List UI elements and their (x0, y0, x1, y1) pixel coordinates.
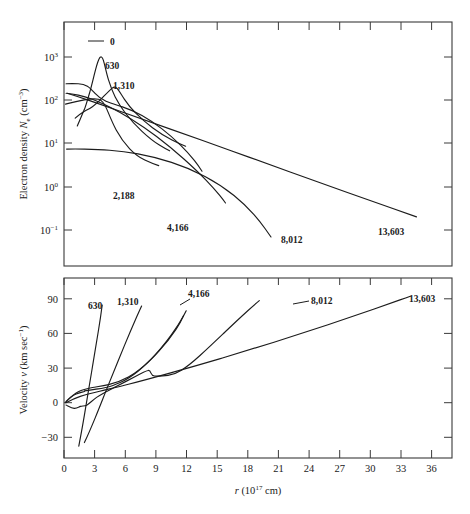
top-ytick-0: 100 (44, 181, 59, 193)
bottom-ytick-30: 30 (48, 363, 59, 374)
bottom-panel-y-axis-title: Velocity v (km sec−1) (17, 325, 30, 414)
bottom-curve-4166 (66, 311, 186, 402)
bottom-panel-x-ticks (64, 450, 432, 458)
bottom-label-13603: 13,603 (409, 294, 435, 304)
bottom-panel-x-tick-labels: 0 3 6 9 12 15 18 21 24 27 30 33 36 (61, 463, 436, 474)
top-label-4166: 4,166 (167, 223, 189, 233)
top-curve-1310 (75, 87, 185, 146)
top-panel-y-axis-title: Electron density Ne (cm−3) (17, 88, 32, 200)
figure-container: 103 102 101 100 10−1 Electron density Ne… (0, 0, 470, 514)
bottom-panel-y-ticks (64, 299, 452, 438)
bottom-panel-y-tick-labels: 90 60 30 0 −30 (42, 294, 58, 444)
bottom-panel-top-ticks (64, 278, 432, 285)
bottom-xtick-9: 9 (153, 463, 158, 474)
bottom-ytick-60: 60 (48, 328, 59, 339)
top-ytick-3: 103 (44, 51, 59, 63)
top-label-13603: 13,603 (378, 227, 404, 237)
bottom-xtick-15: 15 (212, 463, 223, 474)
bottom-curve-13603 (66, 296, 410, 402)
top-ytick-1: 101 (44, 137, 59, 149)
leader-line-8012 (293, 301, 309, 304)
bottom-panel-x-axis-title: r (1017 cm) (235, 484, 282, 497)
bottom-label-8012: 8,012 (311, 296, 333, 306)
bottom-ytick-0: 0 (53, 397, 58, 408)
top-panel-x-ticks (64, 22, 432, 30)
bottom-xtick-36: 36 (426, 463, 437, 474)
bottom-xtick-33: 33 (396, 463, 407, 474)
bottom-curve-630 (79, 305, 102, 446)
bottom-xtick-0: 0 (61, 463, 66, 474)
bottom-xtick-3: 3 (92, 463, 97, 474)
top-panel-y-tick-labels: 103 102 101 100 10−1 (40, 51, 58, 236)
top-label-0: 0 (110, 37, 115, 47)
bottom-xtick-27: 27 (334, 463, 345, 474)
bottom-xtick-18: 18 (243, 463, 254, 474)
bottom-xtick-24: 24 (304, 463, 315, 474)
bottom-ytick-neg30: −30 (42, 432, 58, 443)
top-label-8012: 8,012 (281, 235, 303, 245)
top-panel-curve-labels: 0 630 1,310 2,188 4,166 8,012 13,603 (88, 37, 404, 245)
bottom-xtick-21: 21 (273, 463, 284, 474)
top-panel: 103 102 101 100 10−1 Electron density Ne… (17, 22, 452, 266)
bottom-xtick-30: 30 (365, 463, 376, 474)
bottom-xtick-6: 6 (123, 463, 128, 474)
top-label-1310: 1,310 (113, 81, 135, 91)
bottom-label-630: 630 (88, 301, 103, 311)
bottom-ytick-90: 90 (48, 294, 59, 305)
top-curve-630 (77, 57, 169, 151)
bottom-panel-curves (66, 296, 411, 446)
top-ytick-2: 102 (44, 94, 59, 106)
bottom-xtick-12: 12 (181, 463, 192, 474)
bottom-label-1310: 1,310 (117, 297, 139, 307)
top-ytick-neg1: 10−1 (40, 224, 58, 236)
bottom-panel: 0 3 6 9 12 15 18 21 24 27 30 33 36 (17, 278, 452, 497)
leader-line-4166 (180, 299, 190, 305)
top-label-2188: 2,188 (113, 191, 135, 201)
bottom-label-4166: 4,166 (188, 289, 210, 299)
top-curve-4166 (66, 93, 225, 203)
figure-svg: 103 102 101 100 10−1 Electron density Ne… (0, 0, 470, 514)
top-label-630: 630 (105, 61, 120, 71)
bottom-panel-curve-labels: 630 1,310 4,166 8,012 13,603 (88, 289, 435, 311)
